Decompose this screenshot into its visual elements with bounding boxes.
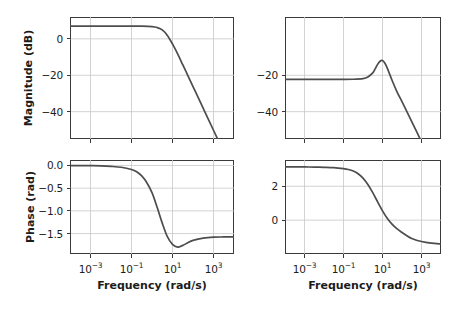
y-tick-mark: [67, 111, 71, 112]
x-tick-mark: [343, 254, 344, 258]
x-tick-label: 101: [164, 261, 181, 275]
y-tick-mark: [67, 188, 71, 189]
y-tick-mark: [67, 210, 71, 211]
x-tick-label: 10−3: [293, 261, 316, 275]
plot-canvas: [285, 160, 441, 254]
y-tick-label: −20: [10, 69, 63, 81]
y-tick-mark: [282, 220, 286, 221]
data-curve: [285, 167, 441, 244]
x-tick-mark: [131, 254, 132, 258]
plot-panel-phase-left: [70, 160, 234, 254]
x-tick-label: 10−1: [332, 261, 355, 275]
plot-canvas: [70, 160, 234, 254]
y-tick-mark: [67, 38, 71, 39]
x-tick-label: 10−1: [120, 261, 143, 275]
data-curve: [70, 26, 234, 174]
plot-panel-magnitude-left: [70, 17, 234, 139]
x-tick-mark: [213, 254, 214, 258]
y-tick-label: 2: [225, 180, 278, 192]
y-tick-mark: [282, 186, 286, 187]
bode-plot-figure: 0−20−40Magnitude (dB)−20−400.0−0.5−1.0−1…: [0, 0, 449, 311]
x-tick-mark: [90, 254, 91, 258]
x-tick-mark: [131, 139, 132, 143]
plot-canvas: [285, 17, 441, 139]
y-tick-label: 0: [10, 33, 63, 45]
y-tick-mark: [282, 111, 286, 112]
y-tick-mark: [67, 233, 71, 234]
x-tick-label: 101: [374, 261, 391, 275]
y-tick-mark: [67, 165, 71, 166]
x-tick-mark: [421, 254, 422, 258]
x-tick-mark: [172, 254, 173, 258]
plot-panel-magnitude-right: [285, 17, 441, 139]
x-tick-mark: [382, 254, 383, 258]
data-curve: [70, 166, 234, 248]
y-tick-label: −20: [225, 69, 278, 81]
y-tick-label: −40: [225, 106, 278, 118]
x-tick-label: 103: [413, 261, 430, 275]
plot-canvas: [70, 17, 234, 139]
y-tick-label: 0.0: [10, 159, 63, 171]
y-tick-mark: [67, 75, 71, 76]
x-tick-mark: [421, 139, 422, 143]
x-tick-label: 10−3: [79, 261, 102, 275]
x-tick-mark: [343, 139, 344, 143]
x-tick-mark: [90, 139, 91, 143]
y-axis-title: Magnitude (dB): [22, 30, 35, 126]
x-tick-label: 103: [205, 261, 222, 275]
x-tick-mark: [172, 139, 173, 143]
x-tick-mark: [304, 254, 305, 258]
y-tick-label: 0: [225, 214, 278, 226]
x-axis-title: Frequency (rad/s): [308, 279, 418, 292]
x-tick-mark: [382, 139, 383, 143]
x-axis-title: Frequency (rad/s): [97, 279, 207, 292]
y-tick-mark: [282, 75, 286, 76]
x-tick-mark: [213, 139, 214, 143]
y-tick-label: −40: [10, 106, 63, 118]
plot-panel-phase-right: [285, 160, 441, 254]
x-tick-mark: [304, 139, 305, 143]
y-axis-title: Phase (rad): [24, 171, 37, 243]
